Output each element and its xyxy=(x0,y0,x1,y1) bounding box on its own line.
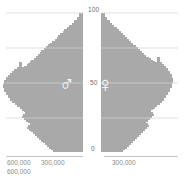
population-pyramid-chart: 100 50 0 ♂ ♀ 600,000 300,000 600,000 300… xyxy=(0,0,184,184)
x-axis-tick-left-300000: 300,000 xyxy=(41,159,65,168)
female-symbol-icon: ♀ xyxy=(97,74,114,96)
x-axis-left-rule xyxy=(6,156,83,157)
male-symbol-icon: ♂ xyxy=(59,73,75,94)
x-axis-tick-labels: 600,000 300,000 600,000 300,000 xyxy=(0,158,184,184)
y-axis-tick-100: 100 xyxy=(88,7,99,14)
x-axis-tick-left-600000-wrapped: 600,000 xyxy=(7,168,31,177)
x-axis-tick-left-600000: 600,000 xyxy=(7,159,31,168)
x-axis-right-rule xyxy=(104,156,178,157)
x-axis-tick-right-300000: 300,000 xyxy=(112,159,136,168)
plot-area: 100 50 0 ♂ ♀ xyxy=(0,0,184,158)
y-axis-tick-0: 0 xyxy=(91,146,95,153)
